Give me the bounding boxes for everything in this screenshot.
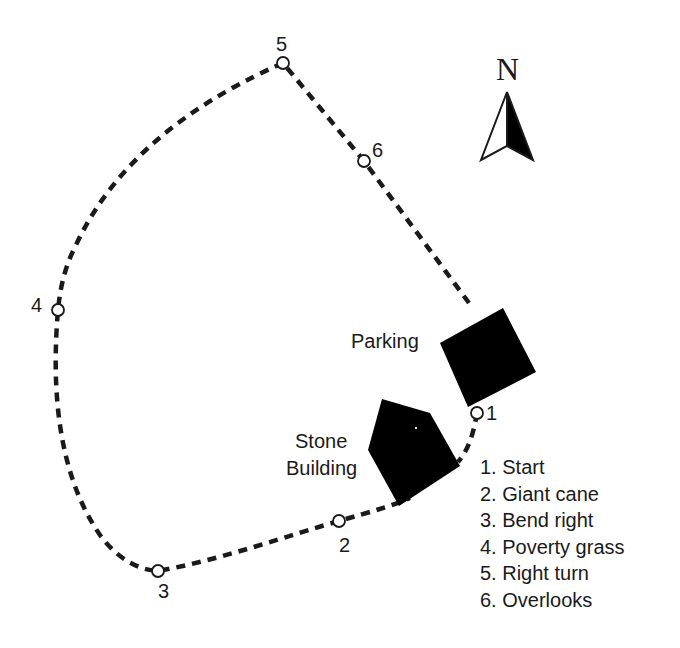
stone-building-label-line1: Stone [295,430,347,452]
legend-item-giant-cane: 2. Giant cane [480,481,625,508]
waypoint-marker-icon [52,304,64,316]
waypoint-marker-icon [333,515,345,527]
waypoint-label: 1 [486,402,497,424]
legend-item-overlooks: 6. Overlooks [480,587,625,614]
building-speck [415,427,417,429]
waypoint-marker-icon [471,407,483,419]
stone-building [368,399,460,506]
waypoint-label: 6 [372,139,383,161]
stone-building-label-line2: Building [286,457,357,479]
waypoint-marker-icon [152,565,164,577]
waypoint-label: 5 [276,33,287,55]
parking-lot [440,308,536,407]
trail-path-start-segment [458,413,477,462]
legend-item-start: 1. Start [480,454,625,481]
north-label: N [496,51,519,87]
north-arrow-icon [481,92,533,160]
legend-item-bend-right: 3. Bend right [480,507,625,534]
waypoint-label: 3 [158,580,169,602]
legend-item-right-turn: 5. Right turn [480,560,625,587]
compass: N [481,51,533,160]
waypoint-label: 4 [31,294,42,316]
waypoint-marker-icon [277,57,289,69]
waypoint-2[interactable]: 2 [333,515,350,556]
waypoint-5[interactable]: 5 [276,33,289,69]
waypoint-legend: 1. Start 2. Giant cane 3. Bend right 4. … [480,454,625,613]
waypoint-label: 2 [339,534,350,556]
legend-item-poverty-grass: 4. Poverty grass [480,534,625,561]
waypoint-6[interactable]: 6 [358,139,383,167]
parking-label: Parking [351,330,419,352]
waypoint-marker-icon [358,155,370,167]
